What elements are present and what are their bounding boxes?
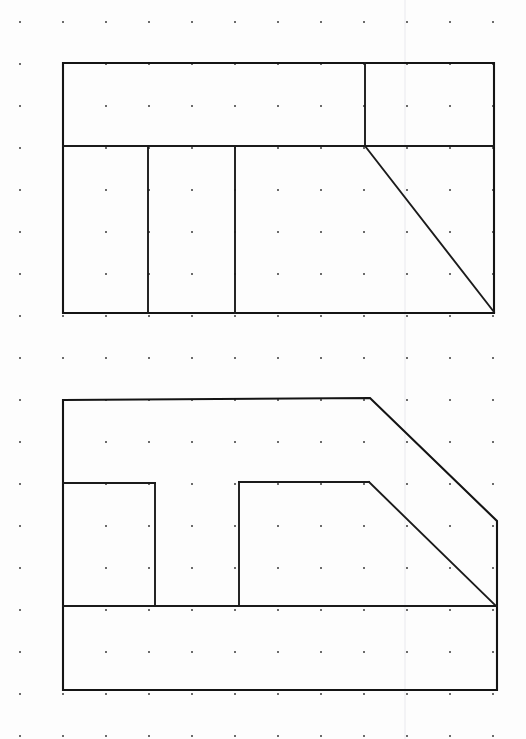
grid-dot bbox=[363, 525, 365, 527]
grid-dot bbox=[363, 273, 365, 275]
grid-dot bbox=[105, 273, 107, 275]
grid-dot bbox=[19, 483, 21, 485]
grid-dot bbox=[449, 315, 451, 317]
sketch-canvas[interactable] bbox=[0, 0, 526, 739]
grid-dot bbox=[234, 651, 236, 653]
grid-dot bbox=[363, 567, 365, 569]
chamfer-diagonal-hit-area[interactable] bbox=[365, 146, 494, 312]
grid-dot bbox=[320, 189, 322, 191]
grid-dot bbox=[449, 399, 451, 401]
grid-dot bbox=[148, 21, 150, 23]
top-view-outline[interactable] bbox=[63, 63, 494, 313]
grid-dot bbox=[492, 693, 494, 695]
grid-dot bbox=[492, 525, 494, 527]
grid-dot bbox=[105, 357, 107, 359]
grid-dot bbox=[148, 105, 150, 107]
grid-dot bbox=[19, 21, 21, 23]
grid-dot bbox=[492, 357, 494, 359]
grid-dot bbox=[19, 105, 21, 107]
grid-dot bbox=[320, 525, 322, 527]
grid-dot bbox=[406, 273, 408, 275]
grid-dot bbox=[19, 273, 21, 275]
grid-dot bbox=[406, 315, 408, 317]
grid-dot bbox=[320, 693, 322, 695]
grid-dot bbox=[19, 567, 21, 569]
grid-dot bbox=[19, 189, 21, 191]
grid-dot bbox=[234, 105, 236, 107]
grid-dot bbox=[191, 357, 193, 359]
grid-dot bbox=[19, 525, 21, 527]
grid-dot bbox=[148, 315, 150, 317]
top-view[interactable] bbox=[63, 63, 494, 313]
grid-dot bbox=[277, 651, 279, 653]
grid-dot bbox=[191, 483, 193, 485]
grid-dot bbox=[363, 651, 365, 653]
grid-dot bbox=[406, 105, 408, 107]
grid-dot bbox=[320, 105, 322, 107]
grid-dot bbox=[148, 441, 150, 443]
grid-dot bbox=[492, 315, 494, 317]
grid-dot bbox=[19, 693, 21, 695]
grid-dot bbox=[277, 357, 279, 359]
grid-dot bbox=[191, 231, 193, 233]
grid-dot bbox=[406, 693, 408, 695]
grid-dot bbox=[406, 735, 408, 737]
grid-dot bbox=[492, 399, 494, 401]
grid-dot bbox=[363, 399, 365, 401]
grid-dot bbox=[406, 441, 408, 443]
grid-dot bbox=[320, 735, 322, 737]
grid-dot bbox=[492, 21, 494, 23]
grid-dot bbox=[105, 189, 107, 191]
grid-dot bbox=[406, 399, 408, 401]
grid-dot bbox=[320, 567, 322, 569]
grid-dot bbox=[492, 735, 494, 737]
grid-dot bbox=[191, 567, 193, 569]
grid-dot bbox=[449, 483, 451, 485]
grid-dot bbox=[62, 693, 64, 695]
grid-dot bbox=[148, 693, 150, 695]
grid-dot bbox=[191, 525, 193, 527]
grid-dot bbox=[277, 21, 279, 23]
grid-dot bbox=[62, 21, 64, 23]
grid-dot bbox=[19, 441, 21, 443]
grid-dot bbox=[277, 693, 279, 695]
front-view[interactable] bbox=[63, 398, 497, 690]
grid-dot bbox=[234, 441, 236, 443]
grid-dot bbox=[105, 21, 107, 23]
grid-dot bbox=[277, 315, 279, 317]
grid-dot bbox=[19, 315, 21, 317]
grid-dot bbox=[320, 273, 322, 275]
grid-dot bbox=[449, 189, 451, 191]
grid-dot bbox=[406, 231, 408, 233]
grid-dot bbox=[363, 21, 365, 23]
grid-dot bbox=[105, 525, 107, 527]
dot-grid bbox=[19, 21, 494, 737]
grid-dot bbox=[449, 735, 451, 737]
grid-dot bbox=[277, 189, 279, 191]
grid-dot bbox=[234, 315, 236, 317]
grid-dot bbox=[406, 651, 408, 653]
grid-dot bbox=[105, 441, 107, 443]
grid-dot bbox=[320, 231, 322, 233]
grid-dot bbox=[19, 231, 21, 233]
grid-dot bbox=[449, 525, 451, 527]
grid-dot bbox=[277, 231, 279, 233]
grid-dot bbox=[277, 567, 279, 569]
grid-dot bbox=[191, 273, 193, 275]
grid-dot bbox=[492, 567, 494, 569]
grid-dot bbox=[19, 399, 21, 401]
grid-dot bbox=[320, 315, 322, 317]
front-view-interior-lines[interactable] bbox=[63, 482, 497, 606]
grid-dot bbox=[148, 735, 150, 737]
grid-dot bbox=[191, 693, 193, 695]
grid-dot bbox=[449, 21, 451, 23]
grid-dot bbox=[277, 105, 279, 107]
grid-dot bbox=[19, 651, 21, 653]
grid-dot bbox=[449, 693, 451, 695]
grid-dot bbox=[105, 651, 107, 653]
grid-dot bbox=[191, 735, 193, 737]
grid-dot bbox=[191, 21, 193, 23]
top-view-interior-lines[interactable] bbox=[63, 63, 494, 313]
grid-dot bbox=[406, 483, 408, 485]
grid-dot bbox=[19, 609, 21, 611]
